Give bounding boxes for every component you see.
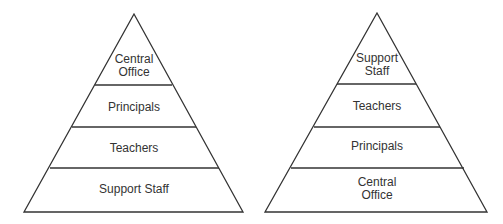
right-level-1-label: Support Staff — [356, 52, 398, 78]
right-level-4-label: Central Office — [358, 176, 397, 202]
left-level-4-label: Support Staff — [99, 183, 169, 196]
left-level-1-label: Central Office — [115, 53, 154, 79]
left-level-3-label: Teachers — [110, 142, 159, 155]
right-level-2-label: Teachers — [353, 100, 402, 113]
right-level-3-label: Principals — [351, 140, 403, 153]
pyramids-canvas — [0, 0, 503, 224]
left-level-2-label: Principals — [108, 101, 160, 114]
